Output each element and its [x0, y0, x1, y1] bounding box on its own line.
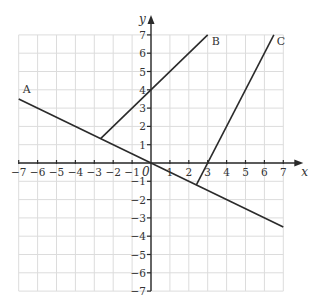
x-tick-label: 5: [242, 166, 249, 178]
y-tick-label: −5: [131, 249, 146, 261]
x-tick-label: 4: [223, 166, 230, 178]
y-axis-arrow-icon: [148, 15, 155, 24]
x-tick-label: −7: [11, 166, 26, 178]
line-label-a: A: [22, 83, 32, 96]
y-axis-label: y: [138, 12, 146, 26]
line-label-c: C: [277, 35, 285, 48]
y-tick-label: −7: [131, 285, 146, 297]
x-tick-label: −4: [68, 166, 84, 178]
y-tick-label: 4: [139, 84, 146, 96]
y-tick-label: −1: [131, 175, 146, 187]
y-tick-label: −6: [131, 267, 147, 279]
y-tick-label: −3: [131, 212, 146, 224]
y-tick-label: −4: [131, 230, 147, 242]
x-tick-label: −6: [30, 166, 46, 178]
line-b: [101, 35, 208, 139]
x-tick-label: −3: [87, 166, 102, 178]
x-tick-label: −5: [49, 166, 64, 178]
y-tick-label: 7: [139, 29, 146, 41]
coordinate-plane: xy0 −7−6−5−4−3−2−112345677654321−1−2−3−4…: [0, 0, 316, 306]
y-tick-label: −2: [131, 194, 146, 206]
x-tick-label: 6: [261, 166, 268, 178]
x-axis-label: x: [301, 165, 308, 179]
y-tick-label: 1: [139, 139, 146, 151]
line-label-b: B: [212, 35, 220, 48]
x-tick-label: 7: [280, 166, 287, 178]
y-tick-label: 2: [139, 120, 146, 132]
y-tick-label: 5: [139, 66, 146, 78]
y-tick-label: 6: [139, 47, 146, 59]
x-tick-label: 2: [185, 166, 192, 178]
y-tick-label: 3: [139, 102, 146, 114]
x-tick-label: −2: [105, 166, 120, 178]
